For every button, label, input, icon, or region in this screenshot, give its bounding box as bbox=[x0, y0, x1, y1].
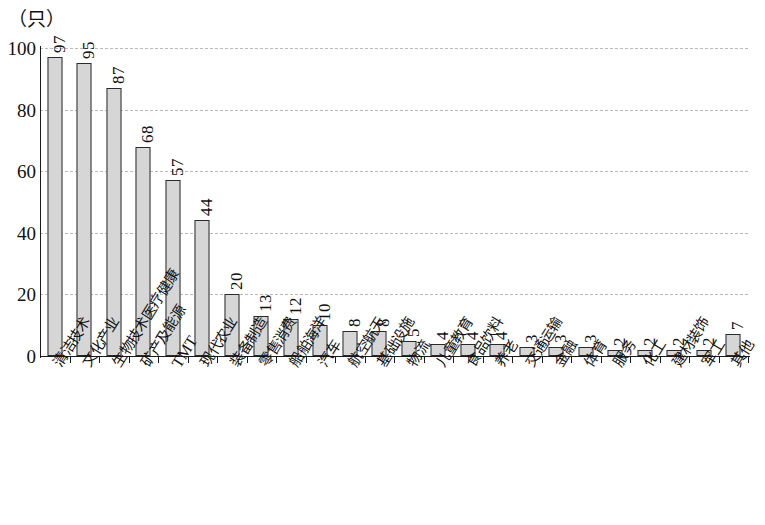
x-axis-tick bbox=[512, 356, 513, 363]
x-axis-tick bbox=[188, 356, 189, 363]
bar-slot: 8 bbox=[365, 40, 395, 356]
bar-value-label: 97 bbox=[52, 35, 67, 53]
x-axis-tick bbox=[217, 356, 218, 363]
bar-slot: 97 bbox=[40, 40, 70, 356]
y-axis-tick-label: 40 bbox=[0, 224, 36, 243]
x-axis-tick bbox=[542, 356, 543, 363]
bar-value-label: 20 bbox=[229, 272, 244, 290]
x-axis-tick bbox=[306, 356, 307, 363]
bar-slot: 10 bbox=[306, 40, 336, 356]
bar-slot: 5 bbox=[394, 40, 424, 356]
x-axis-tick bbox=[601, 356, 602, 363]
bar-slot: 4 bbox=[424, 40, 454, 356]
x-axis-tick bbox=[129, 356, 130, 363]
bar-slot: 12 bbox=[276, 40, 306, 356]
bar-slot: 2 bbox=[689, 40, 719, 356]
y-axis-tick-labels: 020406080100 bbox=[0, 40, 36, 360]
y-axis-tick-label: 80 bbox=[0, 101, 36, 120]
bar-value-label: 13 bbox=[258, 294, 273, 312]
bar-slot: 95 bbox=[70, 40, 100, 356]
x-axis-tick bbox=[483, 356, 484, 363]
x-axis-tick bbox=[689, 356, 690, 363]
bar-slot: 4 bbox=[453, 40, 483, 356]
bar-slot: 8 bbox=[335, 40, 365, 356]
bar-value-label: 44 bbox=[199, 198, 214, 216]
x-axis-tick bbox=[571, 356, 572, 363]
bar-value-label: 7 bbox=[730, 321, 745, 330]
bar-slot: 7 bbox=[719, 40, 749, 356]
bar[interactable] bbox=[47, 57, 62, 356]
bar-slot: 3 bbox=[571, 40, 601, 356]
y-axis-unit-label: （只） bbox=[8, 4, 65, 31]
bar-value-label: 87 bbox=[111, 66, 126, 84]
x-axis-tick bbox=[158, 356, 159, 363]
bar-value-label: 12 bbox=[288, 297, 303, 315]
bar-slot: 4 bbox=[483, 40, 513, 356]
bar[interactable] bbox=[195, 220, 210, 356]
x-axis-tick bbox=[424, 356, 425, 363]
x-axis-tick bbox=[99, 356, 100, 363]
bar-slot: 2 bbox=[660, 40, 690, 356]
x-axis-tick bbox=[276, 356, 277, 363]
x-axis-tick bbox=[453, 356, 454, 363]
x-axis-tick bbox=[335, 356, 336, 363]
bar-value-label: 95 bbox=[81, 41, 96, 59]
bar-slot: 44 bbox=[188, 40, 218, 356]
bar-slot: 2 bbox=[601, 40, 631, 356]
y-axis-tick-label: 60 bbox=[0, 162, 36, 181]
bar-slot: 3 bbox=[512, 40, 542, 356]
bar-slot: 3 bbox=[542, 40, 572, 356]
x-axis-tick bbox=[247, 356, 248, 363]
x-axis-tick bbox=[365, 356, 366, 363]
x-axis-tick bbox=[748, 356, 749, 363]
bar-chart: （只） 020406080100 97958768574420131210885… bbox=[0, 0, 765, 525]
x-axis-tick bbox=[70, 356, 71, 363]
bar-value-label: 68 bbox=[140, 125, 155, 143]
bar-value-label: 8 bbox=[347, 318, 362, 327]
bar-slot: 2 bbox=[630, 40, 660, 356]
x-axis-tick bbox=[660, 356, 661, 363]
y-axis-tick-label: 100 bbox=[0, 39, 36, 58]
x-axis-tick bbox=[630, 356, 631, 363]
bar-slot: 20 bbox=[217, 40, 247, 356]
bar-value-label: 57 bbox=[170, 158, 185, 176]
bar[interactable] bbox=[77, 63, 92, 356]
y-axis-tick-label: 20 bbox=[0, 285, 36, 304]
bar-slot: 13 bbox=[247, 40, 277, 356]
bar-slot: 87 bbox=[99, 40, 129, 356]
x-axis-tick bbox=[719, 356, 720, 363]
x-axis-tick bbox=[394, 356, 395, 363]
x-axis-category-labels: 清洁技术文化产业生物技术医疗健康矿产及能源TMT现代农业装备制造零售消费船舶海洋… bbox=[0, 356, 765, 525]
